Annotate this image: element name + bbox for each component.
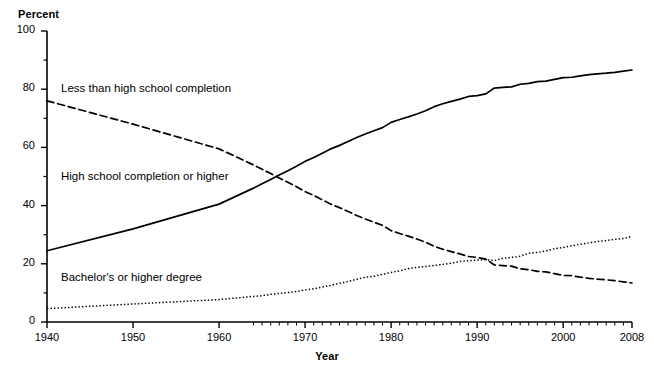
series-annotation-less-than-high-school: Less than high school completion <box>61 82 231 94</box>
series-annotation-high-school-or-higher: High school completion or higher <box>61 170 228 182</box>
y-axis-tick-label: 60 <box>1 139 35 151</box>
series-annotation-bachelors-or-higher: Bachelor's or higher degree <box>61 271 202 283</box>
x-axis-tick-label: 1940 <box>17 331 77 343</box>
y-axis-tick-label: 100 <box>1 23 35 35</box>
plot-area <box>0 0 654 373</box>
x-axis-tick-label: 1990 <box>447 331 507 343</box>
x-axis-title: Year <box>0 350 654 362</box>
x-axis-tick-label: 1960 <box>189 331 249 343</box>
y-axis-tick-label: 80 <box>1 81 35 93</box>
series-line-0 <box>47 101 632 283</box>
education-attainment-line-chart: Percent Year Less than high school compl… <box>0 0 654 373</box>
y-axis-tick-label: 40 <box>1 198 35 210</box>
y-axis-tick-label: 20 <box>1 256 35 268</box>
x-axis-tick-label: 1980 <box>361 331 421 343</box>
y-axis-title: Percent <box>18 8 59 20</box>
y-axis-tick-label: 0 <box>1 314 35 326</box>
x-axis-tick-label: 1950 <box>103 331 163 343</box>
x-axis-tick-label: 2008 <box>602 331 654 343</box>
series-line-1 <box>47 70 632 251</box>
x-axis-tick-label: 1970 <box>275 331 335 343</box>
x-axis-tick-label: 2000 <box>533 331 593 343</box>
